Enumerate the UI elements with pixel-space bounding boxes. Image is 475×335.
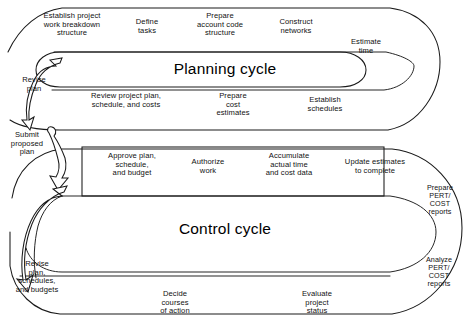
connector-label-submit-proposed-plan: Submit proposed plan xyxy=(0,131,54,157)
planning-bottom-item-0: Review project plan, schedule, and costs xyxy=(70,92,182,109)
planning-top-item-0: Establish project work breakdown structu… xyxy=(24,12,120,38)
control-bottom-item-0: Decide courses of action xyxy=(146,290,204,316)
cycle-diagram: Establish project work breakdown structu… xyxy=(0,0,475,335)
revise-plan-arrow xyxy=(22,58,62,130)
planning-top-item-2: Prepare account code structure xyxy=(184,12,256,38)
control-top-item-0: Approve plan, schedule, and budget xyxy=(92,152,172,178)
control-top-item-2: Accumulate actual time and cost data xyxy=(251,152,327,178)
planning-bottom-item-1: Prepare cost estimates xyxy=(205,92,261,118)
control-top-item-3: Update estimates to complete xyxy=(331,158,419,175)
planning-top-item-3: Construct networks xyxy=(265,18,327,35)
control-right-label-1: Analyze PERT/ COST reports xyxy=(412,256,466,288)
control-cycle-title: Control cycle xyxy=(140,221,310,237)
planning-top-item-1: Define tasks xyxy=(122,18,172,35)
control-top-item-1: Authorize work xyxy=(180,158,236,175)
planning-bottom-item-2: Establish schedules xyxy=(294,96,356,113)
connector-label-revise-plan-schedules: Revise plan, schedules, and budgets xyxy=(2,260,72,294)
planning-cycle-title: Planning cycle xyxy=(140,61,310,77)
planning-right-label: Estimate time xyxy=(341,38,391,55)
control-right-label-0: Prepare PERT/ COST reports xyxy=(414,184,466,216)
connector-label-revise-plan: Revise plan xyxy=(9,76,59,93)
control-bottom-item-1: Evaluate project status xyxy=(288,290,346,316)
